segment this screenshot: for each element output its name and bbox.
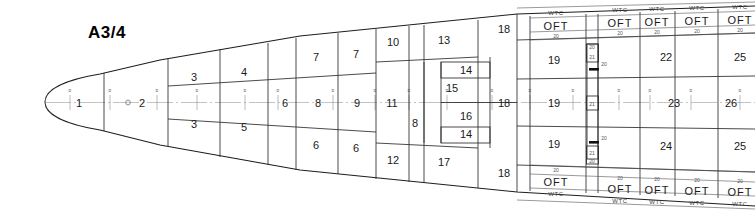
svg-text:≡: ≡ [332, 87, 335, 93]
compartment-number: 3 [191, 71, 197, 83]
svg-text:≡: ≡ [244, 87, 247, 93]
dim-label-bot-5: 20 [737, 178, 743, 184]
oft-label-bot-3: OFT [645, 184, 670, 196]
dim-label-bot-3: 20 [654, 176, 660, 182]
drawing-canvas: A3/4 ≡ ≡ ≡ ≡ ≡ ≡ ≡ ≡ ≡ ≡ ≡ ≡ ≡ ≡ ≡ ≡ [0, 0, 755, 213]
dim-label-top-4: 20 [694, 28, 700, 34]
compartment-number: 8 [412, 117, 418, 129]
svg-text:≡: ≡ [156, 87, 159, 93]
svg-text:≡: ≡ [69, 87, 72, 93]
dim-label-bot-1: 20 [553, 167, 559, 173]
wtc-label-bot-4: WTC [689, 200, 705, 206]
frame-tick: ≡ [739, 87, 742, 110]
frame-tick: ≡ [156, 87, 159, 110]
svg-text:≡: ≡ [196, 87, 199, 93]
compartment-number: 19 [548, 54, 560, 66]
compartment-number: 18 [498, 167, 510, 179]
frame-tick: ≡ [572, 87, 575, 110]
oft-label-top-4: OFT [685, 15, 710, 27]
frame-tick: ≡ [491, 87, 494, 110]
compartment-number: 2 [139, 97, 145, 109]
compartment-number: 18 [498, 97, 510, 109]
compartment-number: 19 [548, 138, 560, 150]
compartment-number: 5 [241, 121, 247, 133]
wtc-label-bot-5: WTC [732, 201, 748, 207]
compartment-number: 6 [353, 142, 359, 154]
compartment-number: 6 [282, 97, 288, 109]
frame-tick: ≡ [332, 87, 335, 110]
centerline-compartment-numbers: 1 2 6 8 9 11 18 19 23 26 [76, 97, 737, 109]
forebody-bulkheads [104, 14, 517, 192]
wtc-label-top-2: WTC [612, 7, 628, 13]
duct-dim-lower: 20 [601, 135, 607, 141]
wtc-label-bot-3: WTC [649, 199, 665, 205]
wtc-label-bot-1: WTC [548, 191, 564, 197]
svg-text:≡: ≡ [572, 87, 575, 93]
compartment-number: 25 [734, 51, 746, 63]
oft-label-top-1: OFT [544, 20, 569, 32]
compartment-number: 7 [353, 48, 359, 60]
compartment-number: 1 [76, 97, 82, 109]
duct-label-20-bot: 20 [589, 158, 595, 164]
oft-label-bot-1: OFT [544, 176, 569, 188]
svg-text:≡: ≡ [109, 87, 112, 93]
wtc-label-top-5: WTC [732, 4, 748, 10]
svg-text:≡: ≡ [649, 87, 652, 93]
svg-text:≡: ≡ [690, 87, 693, 93]
compartment-number: 8 [315, 97, 321, 109]
compartment-number: 13 [438, 34, 450, 46]
ship-plan-svg: ≡ ≡ ≡ ≡ ≡ ≡ ≡ ≡ ≡ ≡ ≡ ≡ ≡ ≡ ≡ ≡ ≡ [0, 0, 755, 213]
center-duct-keel: 20 20 20 21 21 21 20 [587, 44, 607, 164]
oft-label-top-3: OFT [645, 16, 670, 28]
duct-dim-upper: 20 [601, 61, 607, 67]
frame-tick: ≡ [649, 87, 652, 110]
oft-label-bot-4: OFT [685, 185, 710, 197]
svg-text:≡: ≡ [739, 87, 742, 93]
compartment-number: 19 [548, 97, 560, 109]
svg-text:≡: ≡ [618, 87, 621, 93]
frame-tick: ≡ [277, 87, 280, 110]
wtc-label-bot-2: WTC [612, 198, 628, 204]
compartment-number: 16 [460, 110, 472, 122]
oft-label-bot-2: OFT [608, 183, 633, 195]
compartment-number: 3 [191, 118, 197, 130]
dim-label-top-3: 20 [654, 29, 660, 35]
dim-label-top-1: 20 [553, 33, 559, 39]
compartment-number: 18 [498, 23, 510, 35]
compartment-number: 4 [241, 66, 247, 78]
frame-tick: ≡ [196, 87, 199, 110]
compartment-number: 6 [313, 139, 319, 151]
dim-label-top-5: 20 [737, 27, 743, 33]
upper-compartment-numbers: 3 4 7 7 10 13 14 15 18 19 22 25 [191, 23, 746, 94]
dim-label-bot-4: 20 [694, 177, 700, 183]
compartment-number: 17 [438, 156, 450, 168]
lower-compartment-numbers: 3 5 6 6 8 16 14 12 17 18 19 24 25 [191, 110, 746, 179]
svg-text:≡: ≡ [277, 87, 280, 93]
compartment-number: 22 [660, 51, 672, 63]
oft-label-bot-5: OFT [728, 186, 753, 198]
duct-label-20-top: 20 [589, 44, 595, 50]
oft-label-top-5: OFT [728, 14, 753, 26]
dim-label-bot-2: 20 [617, 175, 623, 181]
wtc-label-top-1: WTC [548, 10, 564, 16]
compartment-number: 25 [734, 140, 746, 152]
bottom-tank-labels: 20 OFT WTC 20 OFT WTC 20 OFT WTC 20 OFT … [544, 167, 753, 207]
compartment-number: 7 [313, 51, 319, 63]
compartment-number: 26 [725, 97, 737, 109]
svg-text:≡: ≡ [491, 87, 494, 93]
duct-label-21-bot: 21 [589, 150, 595, 156]
oft-label-top-2: OFT [608, 17, 633, 29]
wtc-label-top-3: WTC [649, 6, 665, 12]
frame-tick: ≡ [109, 87, 112, 110]
frame-tick: ≡ [690, 87, 693, 110]
compartment-number: 14 [460, 64, 472, 76]
wtc-label-top-4: WTC [689, 5, 705, 11]
compartment-number: 23 [668, 97, 680, 109]
compartment-number: 24 [660, 140, 672, 152]
frame-tick: ≡ [618, 87, 621, 110]
compartment-number: 14 [460, 128, 472, 140]
frame-tick-group: ≡ ≡ ≡ ≡ ≡ ≡ ≡ ≡ ≡ ≡ ≡ ≡ ≡ ≡ ≡ ≡ ≡ [69, 87, 742, 110]
dim-label-top-2: 20 [617, 30, 623, 36]
compartment-number: 12 [387, 154, 399, 166]
frame-tick: ≡ [69, 87, 72, 110]
